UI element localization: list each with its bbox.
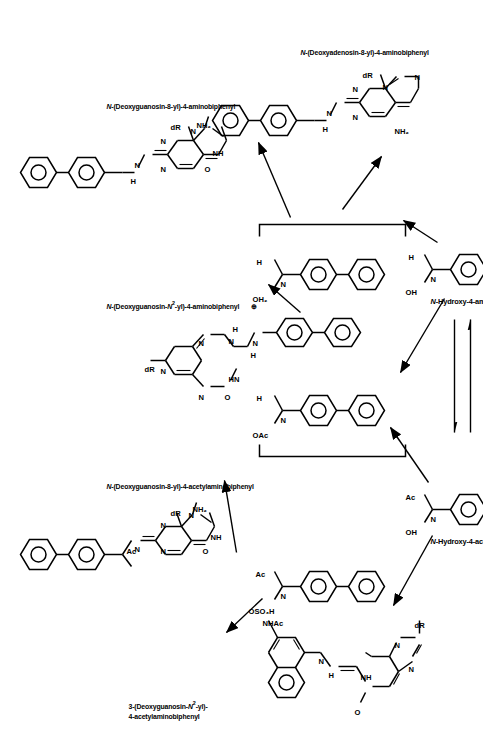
atom-label-n-hydroxyacetyl: N — [430, 514, 435, 523]
atom-label-h-adduct3a: H — [232, 324, 237, 333]
italic-n-5: N — [106, 102, 111, 109]
atom-label-oh-acetyl: OH — [405, 527, 416, 536]
atom-label-o-adduct1: O — [354, 707, 360, 716]
atom-label-h-hydroxyamino: H — [408, 252, 413, 261]
label-rest-2: -Hydroxy-4-aminobiphenyl — [435, 296, 483, 305]
italic-n-4: N — [106, 302, 111, 309]
italic-n-6: N — [300, 48, 305, 55]
structure-dg-8-yl-acetylaminobiphenyl — [20, 502, 214, 569]
atom-label-n9-adduct2: N — [160, 520, 165, 529]
arrow-bracket-to-dg8-amino — [258, 142, 290, 217]
atom-label-n-hydroxyamino: N — [430, 274, 435, 283]
label-rest-1: -Hydroxy-4-acetylaminobiphenyl — [435, 536, 483, 545]
atom-label-nh2-adduct5: NH₂ — [394, 126, 408, 135]
structure-acetoxy-intermediate — [274, 395, 384, 425]
atom-label-n-sulfate: N — [280, 591, 285, 600]
arrow-nhoh-acetyl-to-acetoxy — [390, 427, 428, 482]
scheme-vector-layer — [0, 0, 483, 732]
atom-label-oh-amino: OH — [405, 287, 416, 296]
italic-n-2: N — [430, 296, 435, 305]
adduct1-line2: 4-acetylaminobiphenyl — [128, 712, 199, 719]
atom-label-dr-adduct1: dR — [414, 620, 424, 629]
compound-label-n-hydroxy-4-aminobiphenyl: N-Hydroxy-4-aminobiphenyl — [430, 296, 483, 305]
atom-label-nh-adduct2: NH — [210, 532, 221, 541]
atom-label-nh2-adduct2: NH₂ — [192, 504, 206, 513]
structure-dg-n2-yl-acetylaminobiphenyl — [268, 620, 421, 702]
atom-label-ac-sulfate: Ac — [255, 569, 265, 578]
atom-label-dr-adduct3: dR — [144, 364, 154, 373]
atom-label-n3-adduct4: N — [190, 126, 195, 135]
atom-label-n-acetoxy: N — [280, 415, 285, 424]
atom-label-o-adduct3: O — [224, 392, 230, 401]
italic-n-3: N — [106, 482, 111, 489]
arrow-nhoh-equilibrium — [454, 319, 470, 432]
atom-label-n7-adduct3: N — [198, 392, 203, 401]
adduct5-rest: -(Deoxyadenosin-8-yl)-4-aminobiphenyl — [305, 48, 428, 55]
atom-label-dr-adduct5: dR — [362, 70, 372, 79]
atom-label-h-acetoxy: H — [256, 393, 261, 402]
scheme-canvas: NO₂ NH₂ NHAc OH Ac N OH H N OSO₃H Ac N O… — [0, 0, 483, 732]
atom-label-hn-adduct3: HN — [228, 374, 239, 383]
adduct4-rest: -(Deoxyguanosin-8-yl)-4-aminobiphenyl — [111, 102, 235, 109]
atom-label-nh-adduct4: NH — [212, 148, 223, 157]
atom-label-c8n-adduct2: N — [160, 546, 165, 555]
atom-label-dr-adduct4: dR — [170, 122, 180, 131]
atom-label-o-adduct4: O — [204, 164, 210, 173]
adduct3-rest: -(Deoxyguanosin-N2-yl)-4-aminobiphenyl — [111, 302, 239, 309]
atom-label-n-adduct3b: N — [252, 338, 257, 347]
arrow-sulfate-to-dg8-acetyl — [224, 480, 236, 552]
adduct2-rest: -(Deoxyguanosin-8-yl)-4-acetylaminobiphe… — [111, 482, 254, 489]
arrow-nhoh-amino-to-oh2 — [403, 220, 437, 242]
structure-sulfate-ester — [274, 571, 384, 601]
atom-label-n-adduct1: N — [318, 656, 323, 665]
arrow-nhoh-amino-to-acetoxy — [400, 298, 444, 372]
adduct-label-da-8-yl-aminobiphenyl: N-(Deoxyadenosin-8-yl)-4-aminobiphenyl — [300, 48, 428, 55]
atom-label-n-oh2: N — [280, 279, 285, 288]
atom-label-n9-adduct1: N — [408, 664, 413, 673]
atom-label-n2-adduct3: N — [228, 336, 233, 345]
compound-label-n-hydroxy-4-acetylaminobiphenyl: N-Hydroxy-4-acetylaminobiphenyl — [430, 536, 483, 545]
arrow-nhoh-acetyl-to-sulfate — [393, 535, 432, 605]
atom-label-oac: OAc — [252, 430, 268, 439]
atom-label-n1-adduct5: N — [382, 82, 387, 91]
atom-label-h-oh2: H — [256, 257, 261, 266]
atom-label-oso3h: OSO₃H — [248, 606, 274, 615]
atom-label-h-adduct5: H — [322, 124, 327, 133]
atom-label-n3-adduct5: N — [414, 72, 419, 81]
atom-label-n9-adduct4: N — [160, 136, 165, 145]
charge-symbol-plus: ⊕ — [250, 302, 256, 310]
reaction-scheme-figure: NO₂ NH₂ NHAc OH Ac N OH H N OSO₃H Ac N O… — [0, 0, 483, 732]
atom-label-nhac-adduct1: NHAc — [262, 618, 283, 627]
adduct-label-dg-n2-yl-aminobiphenyl: N-(Deoxyguanosin-N2-yl)-4-aminobiphenyl — [106, 300, 239, 309]
atom-label-h-adduct4: H — [130, 176, 135, 185]
atom-label-nh-adduct1: NH — [360, 672, 371, 681]
atom-label-nh2-adduct4: NH₂ — [196, 120, 210, 129]
atom-label-n3-adduct3: N — [198, 338, 203, 347]
atom-label-n-adduct4: N — [134, 160, 139, 169]
adduct1-line1: 3-(Deoxyguanosin-N2-yl)- — [128, 702, 207, 709]
atom-label-n9-adduct3: N — [160, 366, 165, 375]
atom-label-h-adduct1: H — [328, 670, 333, 679]
atom-label-dr-adduct2: dR — [170, 508, 180, 517]
atom-label-n9-adduct5: N — [352, 84, 357, 93]
atom-label-c8n-adduct4: N — [160, 164, 165, 173]
adduct-label-dg-8-yl-acetylaminobiphenyl: N-(Deoxyguanosin-8-yl)-4-acetylaminobiph… — [106, 482, 253, 489]
atom-label-n-adduct5: N — [326, 108, 331, 117]
atom-label-h-adduct3b: H — [250, 350, 255, 359]
italic-n-1: N — [430, 536, 435, 545]
atom-label-n-adduct2: N — [134, 544, 139, 553]
atom-label-o-adduct2: O — [202, 546, 208, 555]
structure-protonated-hydroxylamine — [274, 259, 384, 289]
adduct-label-dg-8-yl-aminobiphenyl: N-(Deoxyguanosin-8-yl)-4-aminobiphenyl — [106, 102, 235, 109]
adduct-label-dg-n2-yl-acetylaminobiphenyl: 3-(Deoxyguanosin-N2-yl)- 4-acetylaminobi… — [128, 698, 207, 721]
arrow-bracket-to-da8-amino — [342, 156, 381, 209]
atom-label-ac-hydroxy: Ac — [405, 492, 415, 501]
atom-label-n7-adduct1: N — [394, 640, 399, 649]
atom-label-c8n-adduct5: N — [352, 112, 357, 121]
